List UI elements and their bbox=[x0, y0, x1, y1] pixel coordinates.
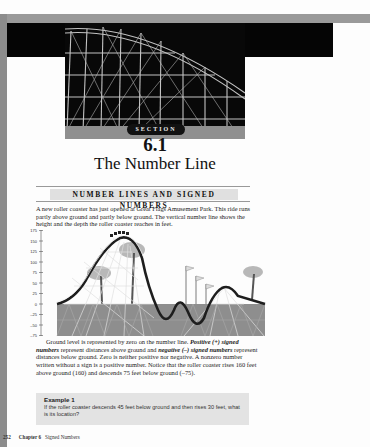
example-title: Example 1 bbox=[44, 396, 75, 403]
chapter-title: Signed Numbers bbox=[45, 434, 80, 440]
example-text: If the roller coaster descends 45 feet b… bbox=[44, 404, 244, 419]
page-top-border bbox=[0, 14, 370, 23]
intro-paragraph: A new roller coaster has just opened at … bbox=[36, 205, 258, 228]
coaster-illustration bbox=[24, 228, 270, 338]
page-number: 252 bbox=[3, 434, 11, 440]
body-paragraph: Ground level is represented by zero on t… bbox=[36, 338, 258, 377]
heading-rule-bottom bbox=[36, 201, 250, 202]
page-left-border bbox=[0, 14, 7, 447]
body-text-2: represent distances above ground and bbox=[59, 346, 158, 353]
heading-rule-top bbox=[36, 186, 250, 187]
section-number: 6.1 bbox=[0, 134, 310, 156]
roller-coaster-photo bbox=[65, 23, 245, 131]
chapter-label: Chapter 6 bbox=[19, 434, 41, 440]
subsection-heading: NUMBER LINES AND SIGNED NUMBERS bbox=[50, 189, 238, 200]
negative-term: negative (–) signed numbers bbox=[158, 346, 232, 353]
section-title: The Number Line bbox=[0, 154, 310, 174]
page-footer: 252Chapter 6Signed Numbers bbox=[3, 434, 80, 440]
roller-coaster-number-line-figure: 175 150 125 100 75 50 25 0 –25 –50 –75 bbox=[24, 228, 270, 338]
body-text-1: Ground level is represented by zero on t… bbox=[46, 338, 190, 345]
example-box: Example 1 If the roller coaster descends… bbox=[36, 393, 249, 425]
